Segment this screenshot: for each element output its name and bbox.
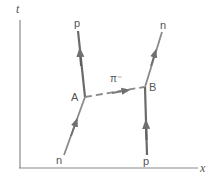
outgoing-proton-label: p — [74, 17, 80, 29]
incoming-proton-label: p — [143, 155, 149, 167]
outgoing-proton-arrow — [80, 52, 81, 66]
vertex-a-label: A — [71, 91, 79, 103]
vertex-b-label: B — [149, 81, 156, 93]
pion-arrow — [112, 91, 126, 94]
t-axis-label: t — [16, 2, 20, 16]
incoming-neutron-arrow — [71, 122, 76, 136]
pion-label: π⁻ — [110, 73, 122, 84]
x-axis-label: x — [199, 161, 206, 175]
incoming-neutron-label: n — [56, 154, 62, 166]
outgoing-neutron-label: n — [160, 19, 166, 31]
feynman-diagram: t x A B π⁻ n p p n — [0, 0, 216, 179]
incoming-proton-arrow — [146, 124, 147, 140]
incoming-proton-line — [145, 87, 147, 155]
